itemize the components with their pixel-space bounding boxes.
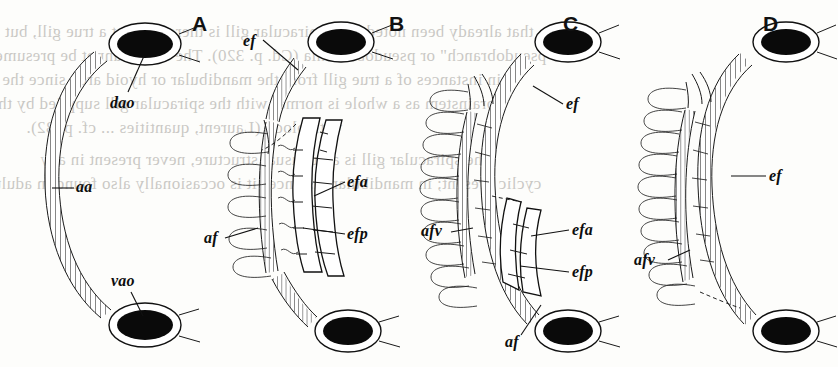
gill-arch-b-upper bbox=[272, 62, 300, 120]
label-vao-a: vao bbox=[111, 272, 135, 290]
label-efp-c: efp bbox=[572, 263, 593, 281]
label-afv-d: afv bbox=[634, 251, 655, 269]
label-dao-a: dao bbox=[110, 94, 135, 112]
dorsal-aorta-a bbox=[109, 23, 200, 65]
panel-c-artwork bbox=[420, 22, 620, 352]
label-efa-b: efa bbox=[347, 173, 368, 191]
ventral-aorta-c bbox=[535, 310, 620, 352]
label-efa-c: efa bbox=[572, 221, 593, 239]
leader-ef-c bbox=[533, 86, 563, 104]
afferent-column-d bbox=[680, 110, 690, 280]
panel-letter-d: D bbox=[763, 12, 778, 36]
figure-container: that already been noted. The spiracular … bbox=[0, 0, 838, 367]
label-ef-d: ef bbox=[769, 167, 782, 185]
afferent-column-c bbox=[462, 112, 472, 276]
label-ef-b: ef bbox=[243, 32, 256, 50]
ventral-aorta-d bbox=[753, 310, 837, 352]
dorsal-aorta-b bbox=[308, 22, 393, 62]
leader-af-b bbox=[225, 228, 258, 238]
ventral-aorta-b bbox=[315, 310, 400, 352]
panel-letter-c: C bbox=[563, 12, 578, 36]
gill-arch-b-lower bbox=[278, 276, 312, 322]
label-afv-c: afv bbox=[421, 222, 442, 240]
panel-b-artwork bbox=[225, 22, 400, 352]
leader-ef-b bbox=[263, 40, 298, 70]
ventral-aorta-a bbox=[109, 303, 200, 347]
panel-letter-a: A bbox=[192, 12, 207, 36]
filament-tips-d bbox=[686, 72, 711, 108]
label-ef-c: ef bbox=[566, 95, 579, 113]
label-af-b: af bbox=[204, 229, 218, 247]
figure-artwork bbox=[0, 0, 838, 367]
label-af-c: af bbox=[505, 333, 519, 351]
label-aa-a: aa bbox=[76, 178, 92, 196]
panel-letter-b: B bbox=[389, 12, 404, 36]
panel-d-artwork bbox=[638, 22, 837, 352]
filament-tips-c bbox=[468, 74, 493, 110]
panel-a-artwork bbox=[45, 23, 200, 347]
label-efp-b: efp bbox=[347, 225, 368, 243]
